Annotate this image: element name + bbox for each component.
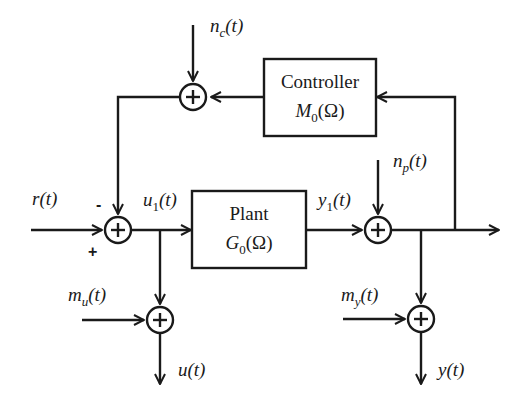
sum-reference <box>105 217 131 243</box>
label-u: u(t) <box>178 359 205 381</box>
block-diagram: Controller M0(Ω) Plant G0(Ω) nc(t) r(t) … <box>0 0 519 408</box>
label-nc: nc(t) <box>210 15 243 40</box>
sum-process-noise <box>365 217 391 243</box>
label-my: my(t) <box>341 284 378 309</box>
plus-sign: + <box>88 243 97 260</box>
label-mu: mu(t) <box>68 284 106 309</box>
controller-name: Controller <box>281 71 360 92</box>
label-y: y(t) <box>436 359 464 381</box>
label-np: np(t) <box>393 150 427 175</box>
plant-name: Plant <box>229 203 269 224</box>
minus-sign: - <box>96 196 101 213</box>
label-u1: u1(t) <box>143 189 177 214</box>
label-r: r(t) <box>32 188 57 210</box>
sum-input-measurement <box>147 307 173 333</box>
sum-output-measurement <box>408 306 434 332</box>
sum-controller-noise <box>180 84 206 110</box>
label-y1: y1(t) <box>316 189 351 214</box>
